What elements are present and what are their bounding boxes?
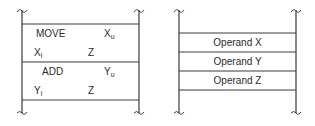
cell-operand-z: Operand Z xyxy=(179,75,296,87)
operand-memory-diagram: Operand X Operand Y Operand Z xyxy=(0,0,315,126)
cell-operand-y: Operand Y xyxy=(179,56,296,68)
cell-operand-x: Operand X xyxy=(179,37,296,49)
